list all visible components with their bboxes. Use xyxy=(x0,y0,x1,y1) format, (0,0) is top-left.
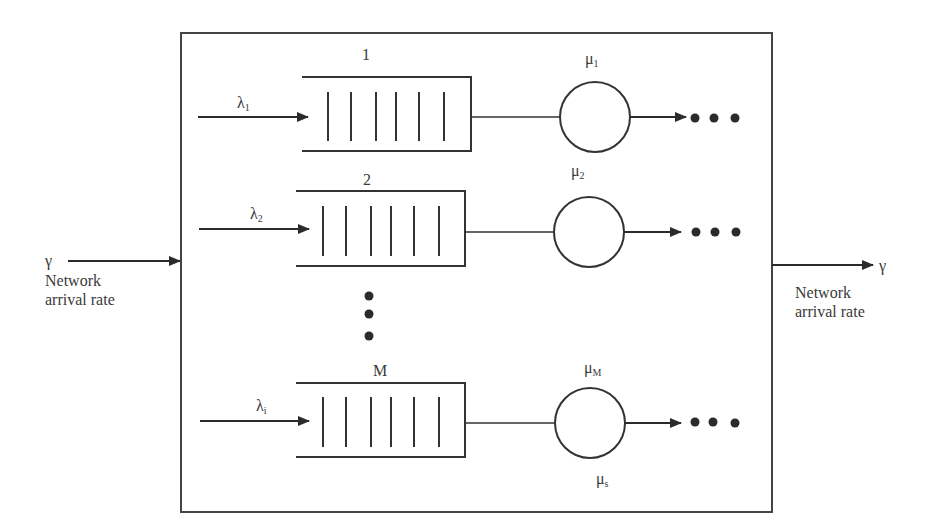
input-gamma-symbol: γ xyxy=(45,252,52,270)
queue-label-1: 1 xyxy=(362,46,370,64)
network-boundary-box xyxy=(181,33,772,512)
input-label: Network arrival rate xyxy=(45,271,115,309)
queue-slots-m xyxy=(323,397,439,447)
queue-row-m xyxy=(200,383,740,458)
queue-label-2: 2 xyxy=(363,171,371,189)
input-label-line1: Network xyxy=(45,271,115,290)
output-label-line1: Network xyxy=(795,283,865,302)
queue-row-1 xyxy=(198,77,740,152)
output-label-line2: arrival rate xyxy=(795,302,865,321)
ellipsis-dots-1 xyxy=(691,114,740,123)
queue-label-m: M xyxy=(373,362,387,380)
arrival-rate-label-1: λ1 xyxy=(237,94,250,117)
arrival-rate-label-m: λi xyxy=(256,397,267,420)
service-rate-label-m: μM xyxy=(584,359,601,382)
mu-symbol: μ xyxy=(585,50,594,67)
subscript: i xyxy=(264,405,267,416)
server-m xyxy=(555,388,625,458)
arrival-rate-label-2: λ2 xyxy=(250,205,263,228)
queue-slots-2 xyxy=(323,206,439,256)
lambda-symbol: λ xyxy=(256,397,264,414)
vertical-ellipsis xyxy=(365,292,374,341)
service-rate-label-s: μs xyxy=(596,470,608,493)
subscript: M xyxy=(593,367,602,378)
subscript: 1 xyxy=(594,58,599,69)
mu-symbol: μ xyxy=(584,359,593,376)
lambda-symbol: λ xyxy=(250,205,258,222)
output-label: Network arrival rate xyxy=(795,283,865,321)
service-rate-label-2: μ2 xyxy=(571,162,585,185)
server-2 xyxy=(554,197,624,267)
subscript: 2 xyxy=(258,213,263,224)
ellipsis-dots-m xyxy=(691,418,740,428)
subscript: 1 xyxy=(245,102,250,113)
ellipsis-dots-2 xyxy=(692,228,741,237)
input-label-line2: arrival rate xyxy=(45,290,115,309)
queueing-network-diagram xyxy=(0,0,930,528)
mu-symbol: μ xyxy=(596,470,605,487)
mu-symbol: μ xyxy=(571,162,580,179)
lambda-symbol: λ xyxy=(237,94,245,111)
queue-row-2 xyxy=(199,191,741,267)
subscript: 2 xyxy=(580,170,585,181)
service-rate-label-1: μ1 xyxy=(585,50,599,73)
subscript: s xyxy=(605,478,609,489)
queue-slots-1 xyxy=(328,92,444,141)
output-gamma-symbol: γ xyxy=(879,257,886,275)
server-1 xyxy=(560,82,630,152)
